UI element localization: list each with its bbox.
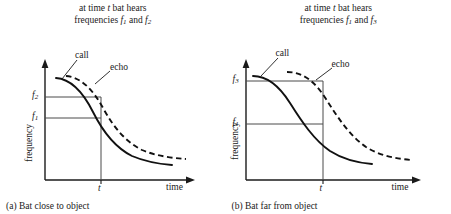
- panel-b-svg: [226, 0, 451, 196]
- panel-b-call-curve: [253, 76, 372, 164]
- panel-a-time-marker-label: t: [98, 183, 101, 193]
- panel-b-time-marker-label: t: [320, 183, 323, 193]
- panel-a-echo-leader: [95, 71, 110, 84]
- panel-b-freq-lower-sub: 1: [235, 120, 239, 128]
- panel-b: at time t bat hears frequencies f1 and f…: [226, 0, 451, 214]
- panel-a-caption: (a) Bat close to object: [6, 201, 89, 211]
- panel-a-echo-label: echo: [110, 62, 128, 72]
- panel-a-freq-lower-label: f1: [32, 111, 38, 122]
- panel-a-call-label: call: [75, 50, 89, 60]
- panel-a-x-axis-label: time: [166, 182, 183, 192]
- panel-b-call-label: call: [276, 48, 290, 58]
- panel-b-caption: (b) Bat far from object: [232, 201, 318, 211]
- panel-b-call-leader: [261, 58, 278, 76]
- panel-b-x-axis-arrow: [412, 177, 421, 184]
- panel-b-x-axis-label: time: [392, 182, 409, 192]
- panel-b-echo-leader: [316, 68, 332, 80]
- panel-b-freq-upper-sub: 3: [235, 77, 239, 85]
- panel-a-freq-upper-label: f2: [32, 90, 38, 101]
- panel-a-x-axis-arrow: [186, 177, 195, 184]
- panel-b-freq-upper-label: f3: [233, 74, 239, 85]
- panel-a-y-axis-arrow: [42, 59, 49, 68]
- panel-b-plot: frequency time call echo f3 f1 t: [226, 0, 451, 196]
- panel-b-echo-label: echo: [332, 59, 350, 69]
- panel-a-freq-lower-sub: 1: [35, 114, 39, 122]
- bat-echolocation-figure: at time t bat hears frequencies f1 and f…: [0, 0, 451, 214]
- panel-a: at time t bat hears frequencies f1 and f…: [0, 0, 226, 214]
- panel-b-echo-curve: [287, 72, 412, 160]
- panel-a-freq-upper-sub: 2: [35, 93, 39, 101]
- panel-b-y-axis-arrow: [242, 59, 249, 68]
- panel-a-call-curve: [56, 78, 172, 165]
- panel-a-y-axis-label: frequency: [24, 124, 34, 162]
- panel-b-freq-lower-label: f1: [233, 117, 239, 128]
- panel-a-plot: frequency time call echo f2 f1 t: [0, 0, 226, 196]
